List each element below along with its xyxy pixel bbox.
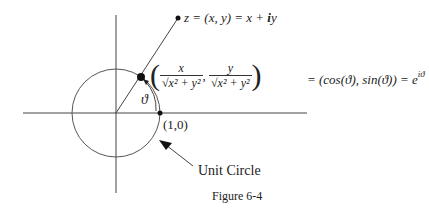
z-label-prefix: z = (x, y) = x +	[184, 10, 267, 25]
z-point-label: z = (x, y) = x + iy	[184, 11, 277, 24]
z-label-y: y	[271, 10, 277, 25]
coords-expression: (x√x² + y², y√x² + y²)	[150, 60, 262, 90]
fraction-x-numerator: x	[177, 62, 186, 75]
fraction-x-denominator: √x² + y²	[160, 75, 203, 89]
one-zero-point	[158, 111, 163, 116]
equality-text: = (cos(ϑ), sin(ϑ)) = e	[307, 72, 418, 87]
open-paren: (	[150, 58, 160, 91]
unit-circle-point	[137, 73, 145, 81]
equality-expression: = (cos(ϑ), sin(ϑ)) = eiϑ	[307, 70, 425, 86]
close-paren: )	[252, 58, 262, 91]
angle-label: ϑ	[141, 93, 148, 107]
fraction-x: x√x² + y²	[160, 62, 203, 89]
unit-circle-pointer-line	[166, 145, 193, 166]
exponent: iϑ	[418, 69, 425, 79]
fraction-y-denominator: √x² + y²	[209, 75, 252, 89]
unit-circle-label: Unit Circle	[198, 164, 261, 178]
fraction-y-numerator: y	[226, 62, 235, 75]
comma: ,	[203, 68, 206, 83]
figure-caption: Figure 6-4	[212, 190, 262, 202]
one-zero-label: (1,0)	[163, 118, 188, 131]
z-point	[176, 16, 181, 21]
fraction-y: y√x² + y²	[209, 62, 252, 89]
